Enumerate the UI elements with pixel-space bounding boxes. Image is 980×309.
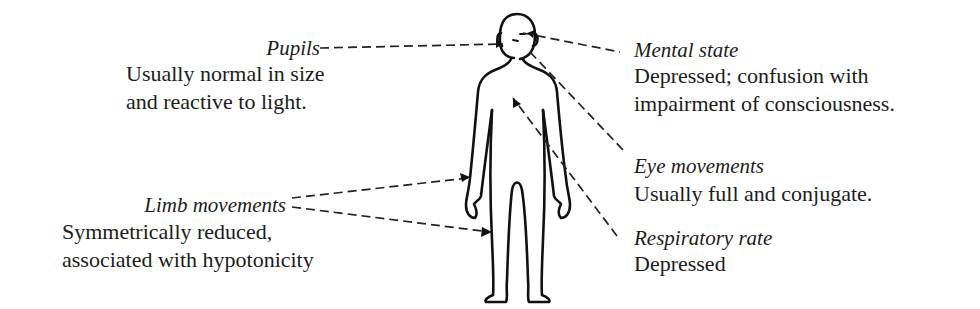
pupils-description-line-2: and reactive to light. (126, 88, 307, 116)
limb-movements-description-line-2: associated with hypotonicity (62, 246, 314, 274)
eye-movements-label: Eye movements (634, 154, 764, 178)
mental-state-description-line-1: Depressed; confusion with (634, 62, 869, 90)
mental-state-label: Mental state (634, 38, 738, 62)
respiratory-rate-description: Depressed (634, 250, 726, 278)
pupils-label: Pupils (180, 36, 320, 60)
limb-movements-description-line-1: Symmetrically reduced, (62, 218, 272, 246)
clinical-signs-diagram: Pupils Usually normal in size and reacti… (0, 0, 980, 309)
respiratory-rate-label: Respiratory rate (634, 226, 772, 250)
pupils-description-line-1: Usually normal in size (126, 60, 325, 88)
eye-movements-description: Usually full and conjugate. (634, 180, 872, 208)
mental-state-description-line-2: impairment of consciousness. (634, 90, 895, 118)
limb-movements-label: Limb movements (90, 193, 286, 217)
